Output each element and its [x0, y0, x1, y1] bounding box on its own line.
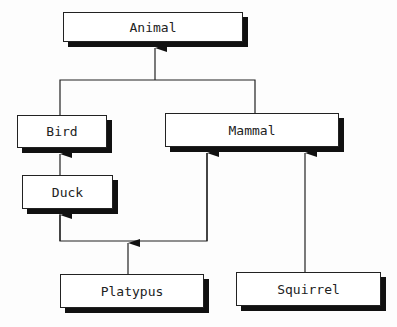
- node-animal: Animal: [63, 12, 243, 42]
- node-duck: Duck: [22, 175, 113, 209]
- node-squirrel: Squirrel: [236, 272, 381, 306]
- node-mammal: Mammal: [165, 113, 339, 147]
- node-platypus: Platypus: [60, 274, 204, 308]
- class-hierarchy-diagram: Animal Bird Mammal Duck Platypus Squirre…: [0, 0, 397, 327]
- node-bird: Bird: [17, 115, 107, 148]
